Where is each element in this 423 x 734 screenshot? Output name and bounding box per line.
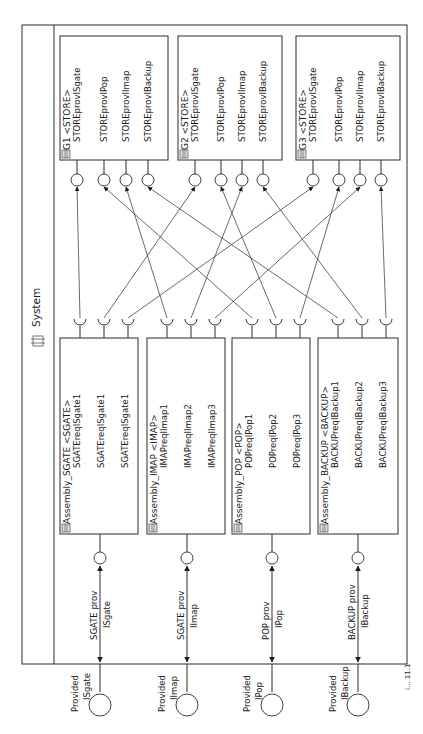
component-icon	[320, 524, 328, 532]
required-interface-socket-icon[interactable]	[246, 319, 258, 325]
system-title: System	[30, 288, 42, 327]
provided-port-label: STOREprovIBackup	[376, 61, 386, 142]
component-icon	[298, 150, 306, 158]
assembly-title: Assembly_BACKUP <BACKUP>	[320, 386, 330, 524]
required-interface-socket-icon[interactable]	[270, 319, 282, 325]
required-port-label: BACKUPreqIBackup2	[354, 381, 364, 468]
store-g3[interactable]: G3 <STORE>STOREprovISgateSTOREprovIPopST…	[296, 36, 400, 186]
external-provided-interface-icon[interactable]	[347, 694, 369, 716]
required-interface-socket-icon[interactable]	[74, 319, 86, 325]
external-interface-label: IBackup	[340, 666, 350, 700]
assembly-title: Assembly_SGATE <SGATE>	[62, 400, 72, 524]
external-interface-label: Provided	[328, 675, 338, 712]
provided-interface-icon[interactable]	[375, 174, 387, 186]
required-interface-socket-icon[interactable]	[209, 319, 221, 325]
assembly-sgate[interactable]: Assembly_SGATE <SGATE>SGATEreqISgate1SGA…	[60, 319, 138, 534]
delegation-label: ISgate	[102, 601, 112, 628]
assembly-pop[interactable]: Assembly_POP <POP>POPreqIPop1POPreqIPop2…	[232, 319, 310, 534]
provided-interface-icon[interactable]	[189, 174, 201, 186]
required-interface-socket-icon[interactable]	[122, 319, 134, 325]
provided-port-label: STOREprovISgate	[190, 67, 200, 142]
external-interface-label: Provided	[242, 675, 252, 712]
external-provided-interface-icon[interactable]	[261, 694, 283, 716]
delegation-label: BACKUP prov	[347, 584, 357, 640]
provided-interface-icon[interactable]	[98, 174, 110, 186]
external-provided-interface-icon[interactable]	[176, 694, 198, 716]
store-components: G1 <STORE>STOREprovISgateSTOREprovIPopST…	[60, 36, 400, 186]
assembly-provided-interface-icon[interactable]	[181, 552, 193, 564]
assembly-connector[interactable]	[381, 187, 386, 318]
store-g2[interactable]: G2 <STORE>STOREprovISgateSTOREprovIPopST…	[178, 36, 282, 186]
assembly-provided-interface-icon[interactable]	[94, 552, 106, 564]
required-interface-socket-icon[interactable]	[161, 319, 173, 325]
provided-port-label: STOREprovIPop	[99, 77, 109, 142]
external-interface-label: IImap	[169, 676, 179, 700]
external-interface-label: Provided	[70, 675, 80, 712]
assembly-backup[interactable]: Assembly_BACKUP <BACKUP>BACKUPreqIBackup…	[318, 319, 398, 534]
assembly-connector[interactable]	[104, 187, 195, 318]
required-port-label: BACKUPreqIBackup3	[378, 381, 388, 468]
assembly-connector[interactable]	[191, 187, 242, 318]
provided-interface-icon[interactable]	[236, 174, 248, 186]
assembly-imap[interactable]: Assembly_IMAP <IMAP>IMAPreqIImap1IMAPreq…	[147, 319, 225, 534]
delegation-backup: BACKUP provIBackupProvidedIBackup	[328, 534, 370, 716]
required-port-label: IMAPreqIImap2	[183, 404, 193, 468]
provided-interface-icon[interactable]	[354, 174, 366, 186]
delegation-label: SGATE prov	[89, 591, 99, 640]
component-icon	[31, 336, 45, 346]
connectors	[77, 187, 386, 318]
required-interface-socket-icon[interactable]	[380, 319, 392, 325]
delegation-pop: POP provIPopProvidedIPop	[242, 534, 284, 716]
provided-port-label: STOREprovIImap	[237, 71, 247, 142]
provided-port-label: STOREprovISgate	[72, 67, 82, 142]
provided-interface-icon[interactable]	[215, 174, 227, 186]
delegation-imap: SGATE provIImapProvidedIImap	[157, 534, 199, 716]
external-interfaces: SGATE provISgateProvidedISgateSGATE prov…	[70, 534, 370, 716]
delegation-sgate: SGATE provISgateProvidedISgate	[70, 534, 112, 716]
provided-port-label: STOREprovIImap	[355, 71, 365, 142]
required-interface-socket-icon[interactable]	[294, 319, 306, 325]
assembly-provided-interface-icon[interactable]	[266, 552, 278, 564]
component-icon	[62, 150, 70, 158]
provided-interface-icon[interactable]	[120, 174, 132, 186]
required-interface-socket-icon[interactable]	[185, 319, 197, 325]
provided-port-label: STOREprovIBackup	[258, 61, 268, 142]
assembly-title: Assembly_POP <POP>	[234, 422, 244, 524]
required-port-label: POPreqIPop1	[244, 414, 254, 468]
provided-interface-icon[interactable]	[307, 174, 319, 186]
assembly-connector[interactable]	[126, 187, 167, 318]
provided-interface-icon[interactable]	[333, 174, 345, 186]
required-port-label: SGATEreqISgate1	[96, 394, 106, 468]
provided-port-label: STOREprovIPop	[334, 77, 344, 142]
required-port-label: SGATEreqISgate1	[120, 394, 130, 468]
required-port-label: IMAPreqIImap3	[207, 404, 217, 468]
provided-port-label: STOREprovIBackup	[143, 61, 153, 142]
assembly-connector[interactable]	[77, 187, 80, 318]
assembly-connector[interactable]	[128, 187, 313, 318]
assembly-connector[interactable]	[148, 187, 338, 318]
provided-interface-icon[interactable]	[257, 174, 269, 186]
assembly-connector[interactable]	[263, 187, 362, 318]
required-interface-socket-icon[interactable]	[356, 319, 368, 325]
figure-caption: i... 11.1	[404, 664, 412, 690]
provided-interface-icon[interactable]	[71, 174, 83, 186]
required-port-label: POPreqIPop2	[268, 414, 278, 468]
required-interface-socket-icon[interactable]	[332, 319, 344, 325]
required-port-label: SGATEreqISgate1	[72, 394, 82, 468]
assembly-components: Assembly_SGATE <SGATE>SGATEreqISgate1SGA…	[60, 319, 398, 534]
assembly-connector[interactable]	[300, 187, 339, 318]
delegation-label: SGATE prov	[176, 591, 186, 640]
provided-interface-icon[interactable]	[142, 174, 154, 186]
assembly-connector[interactable]	[104, 187, 252, 318]
external-provided-interface-icon[interactable]	[89, 694, 111, 716]
external-interface-label: IPop	[254, 682, 264, 700]
delegation-label: POP prov	[261, 601, 271, 640]
provided-port-label: STOREprovISgate	[308, 67, 318, 142]
component-diagram: System G1 <STORE>STOREprovISgateSTOREpro…	[0, 0, 423, 734]
assembly-connector[interactable]	[215, 187, 360, 318]
required-interface-socket-icon[interactable]	[98, 319, 110, 325]
delegation-label: IImap	[189, 604, 199, 628]
assembly-provided-interface-icon[interactable]	[352, 552, 364, 564]
component-icon	[149, 524, 157, 532]
store-g1[interactable]: G1 <STORE>STOREprovISgateSTOREprovIPopST…	[60, 36, 168, 186]
